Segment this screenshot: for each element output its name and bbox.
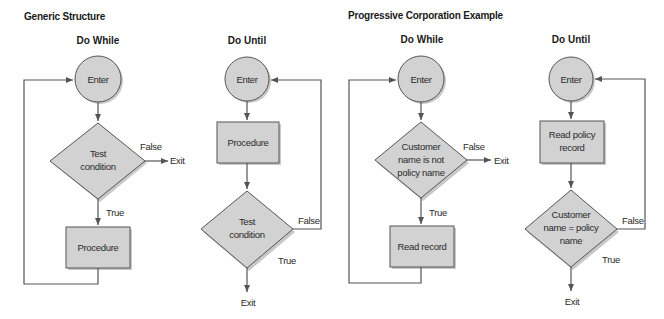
flowchart-diagram: Generic Structure Progressive Corporatio… (0, 0, 664, 319)
example-do-until-exit-label: Exit (565, 296, 580, 307)
example-do-until-false-label: False (622, 215, 644, 226)
generic-do-until-exit-label: Exit (241, 297, 256, 308)
example-do-while-true-label: True (429, 207, 447, 218)
generic-do-until-true-label: True (278, 255, 296, 266)
example-do-until-enter-label: Enter (560, 74, 581, 85)
generic-do-until-condition-line1: Test (239, 216, 256, 227)
example-do-until-procedure-line2: record (559, 142, 584, 153)
section-title-example: Progressive Corporation Example (348, 10, 504, 21)
generic-do-until-title: Do Until (228, 35, 267, 46)
generic-do-while-enter-label: Enter (87, 74, 108, 85)
section-title-generic: Generic Structure (24, 11, 106, 22)
example-do-until-true-label: True (602, 254, 620, 265)
example-do-until-condition-line3: name (560, 235, 583, 246)
generic-do-until-enter-label: Enter (236, 74, 257, 85)
generic-do-while-true-label: True (106, 207, 124, 218)
generic-do-until-false-label: False (298, 215, 320, 226)
example-do-while-false-label: False (463, 141, 485, 152)
generic-do-while-false-label: False (140, 141, 162, 152)
example-do-until-condition-line1: Customer (552, 209, 591, 220)
example-do-while-condition-line1: Customer (402, 141, 441, 152)
example-do-until-title: Do Until (552, 34, 591, 45)
example-do-while-exit-label: Exit (494, 155, 509, 166)
example-do-while-condition-line3: policy name (397, 167, 444, 178)
generic-do-while-condition-line2: condition (80, 161, 115, 172)
example-do-while-enter-label: Enter (410, 74, 431, 85)
example-do-while: Do While Enter Customer name is not poli… (349, 34, 509, 283)
example-do-until-procedure-line1: Read policy (549, 129, 596, 140)
generic-do-until: Do Until Enter Procedure Test condition … (201, 35, 321, 308)
example-do-until: Do Until Enter Read policy record Custom… (525, 34, 645, 307)
generic-do-until-procedure-label: Procedure (227, 137, 268, 148)
generic-do-while-title: Do While (77, 35, 120, 46)
example-do-while-procedure-label: Read record (398, 241, 447, 252)
generic-do-until-condition-line2: condition (229, 229, 264, 240)
generic-do-while-exit-label: Exit (170, 155, 185, 166)
example-do-while-condition-line2: name is not (398, 154, 444, 165)
example-do-while-title: Do While (401, 34, 444, 45)
example-do-until-condition-line2: name = policy (544, 222, 600, 233)
generic-do-while: Do While Enter Test condition False Exit… (24, 35, 185, 284)
generic-do-while-procedure-label: Procedure (77, 242, 118, 253)
generic-do-while-condition-line1: Test (90, 148, 107, 159)
